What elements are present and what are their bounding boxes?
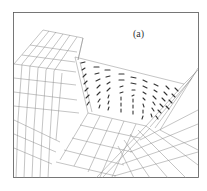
panel-label: (a)	[133, 28, 144, 39]
mesh	[14, 30, 198, 178]
wireframe-plot	[0, 0, 207, 191]
figure: (a)	[0, 0, 207, 191]
